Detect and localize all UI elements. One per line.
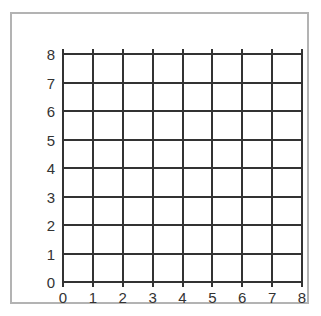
x-axis-tick-label: 2 (119, 290, 127, 305)
x-axis-tick-label: 6 (238, 290, 246, 305)
gridline-vertical (211, 49, 213, 287)
gridline-vertical (122, 49, 124, 287)
plot-area (63, 54, 302, 282)
x-axis-tick-label: 0 (59, 290, 67, 305)
gridline-vertical (62, 49, 64, 287)
gridline-vertical (182, 49, 184, 287)
y-axis-tick-label: 8 (47, 47, 55, 62)
y-axis-tick-label: 2 (47, 218, 55, 233)
y-axis-tick-label: 1 (47, 246, 55, 261)
y-axis-tick-label: 0 (47, 275, 55, 290)
x-axis-tick-labels: 012345678 (63, 290, 302, 310)
y-axis-tick-label: 6 (47, 104, 55, 119)
y-axis-tick-label: 7 (47, 75, 55, 90)
gridline-vertical (271, 49, 273, 287)
x-axis-tick-label: 7 (268, 290, 276, 305)
gridline-vertical (92, 49, 94, 287)
x-axis-tick-label: 4 (178, 290, 186, 305)
x-axis-tick-label: 1 (89, 290, 97, 305)
gridline-vertical (241, 49, 243, 287)
x-axis-tick-label: 3 (148, 290, 156, 305)
gridline-vertical (301, 49, 303, 287)
y-axis-tick-label: 4 (47, 161, 55, 176)
figure-frame: 876543210 012345678 (10, 12, 309, 304)
y-axis-tick-labels: 876543210 (12, 54, 55, 282)
x-axis-tick-label: 5 (208, 290, 216, 305)
gridline-vertical (152, 49, 154, 287)
y-axis-tick-label: 3 (47, 189, 55, 204)
x-axis-tick-label: 8 (298, 290, 306, 305)
y-axis-tick-label: 5 (47, 132, 55, 147)
